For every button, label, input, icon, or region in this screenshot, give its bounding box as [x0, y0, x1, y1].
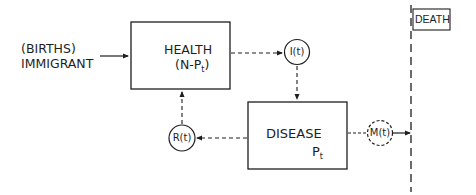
- disease-title: DISEASE: [266, 126, 323, 141]
- recovery-label: R(t): [169, 132, 195, 144]
- death-label: DEATH: [415, 12, 450, 27]
- disease-symbol: Pt: [266, 144, 323, 161]
- incidence-label: I(t): [284, 46, 310, 58]
- source-line2: IMMIGRANT: [21, 56, 93, 71]
- health-title: HEALTH: [164, 42, 212, 57]
- source-label: (BIRTHS) IMMIGRANT: [21, 41, 93, 71]
- source-line1: (BIRTHS): [21, 41, 93, 56]
- disease-label: DISEASE Pt: [266, 126, 323, 161]
- mortality-label: M(t): [367, 127, 393, 139]
- health-label: HEALTH (N-Pt): [164, 42, 212, 74]
- diagram-canvas: [0, 0, 476, 195]
- health-formula: (N-Pt): [164, 57, 212, 74]
